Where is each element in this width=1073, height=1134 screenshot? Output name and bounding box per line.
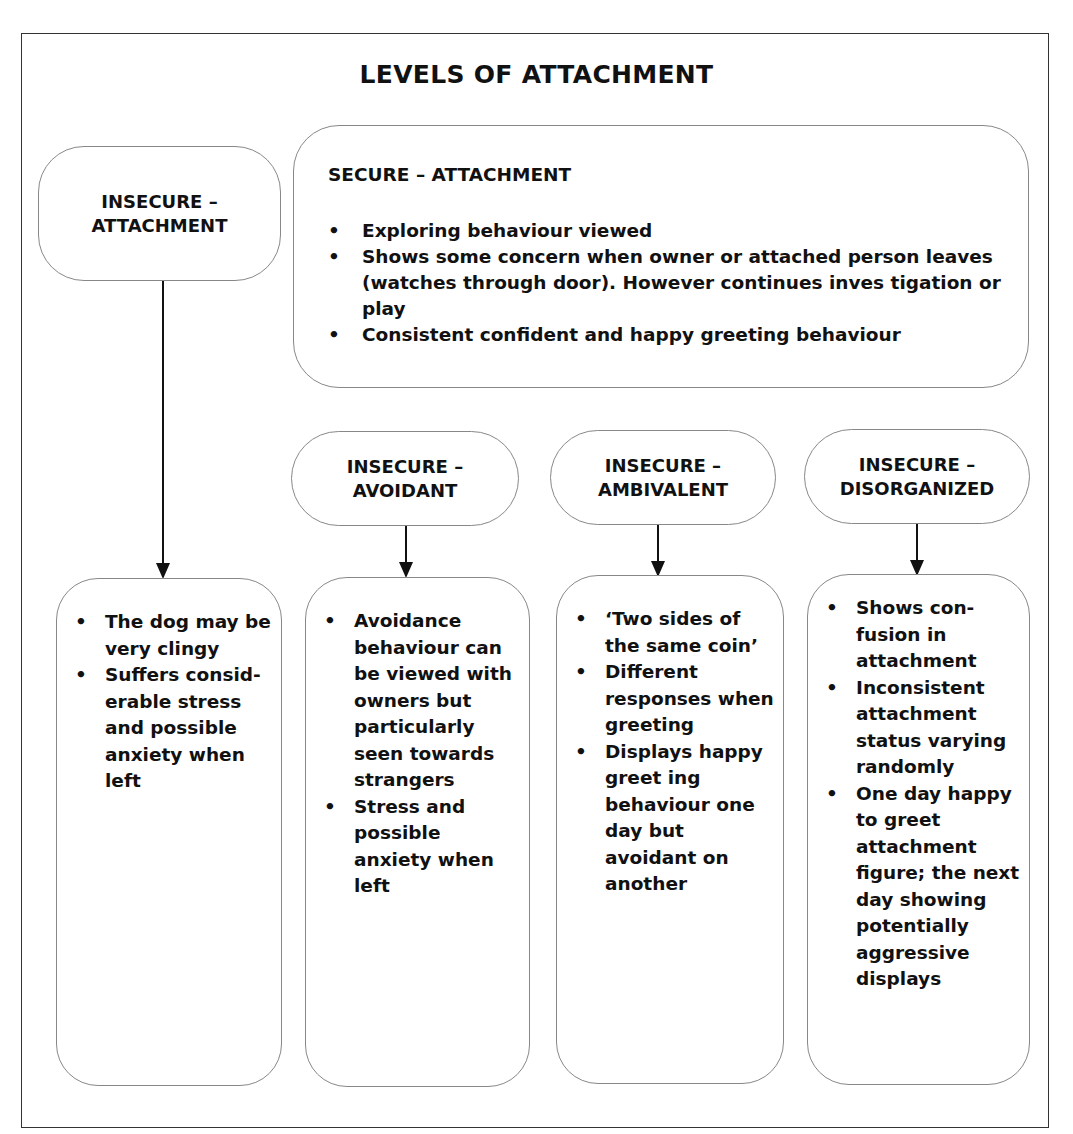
list-item: Shows con-fusion in attachment [822, 595, 1023, 675]
arrow-down-icon [162, 281, 164, 577]
arrow-down-icon [405, 526, 407, 576]
secure-attachment-node: SECURE – ATTACHMENT Exploring behaviour … [293, 125, 1029, 388]
node-label-line2: AMBIVALENT [598, 478, 728, 502]
list-item: Exploring behaviour viewed [324, 218, 1008, 244]
insecure-ambivalent-details: ‘Two sides of the same coin’ Different r… [556, 575, 784, 1084]
list-item: Avoidance behaviour can be viewed with o… [320, 608, 523, 794]
list-item: Stress and possible anxiety when left [320, 794, 523, 900]
insecure-attachment-node: INSECURE – ATTACHMENT [38, 146, 281, 281]
insecure-ambivalent-node: INSECURE – AMBIVALENT [550, 430, 776, 525]
list-item: ‘Two sides of the same coin’ [571, 606, 777, 659]
insecure-attachment-details: The dog may be very clingy Suffers consi… [56, 578, 282, 1086]
details-list: Avoidance behaviour can be viewed with o… [320, 608, 523, 900]
list-item: Shows some concern when owner or attache… [324, 244, 1008, 322]
secure-attachment-heading: SECURE – ATTACHMENT [328, 164, 571, 185]
arrow-down-icon [916, 524, 918, 574]
insecure-disorganized-node: INSECURE – DISORGANIZED [804, 429, 1030, 524]
list-item: Consistent confident and happy greeting … [324, 322, 1008, 348]
insecure-disorganized-details: Shows con-fusion in attachment Inconsist… [807, 574, 1030, 1085]
list-item: Suffers consid-erable stress and possibl… [71, 662, 275, 795]
list-item: Different responses when greeting [571, 659, 777, 739]
list-item: Inconsistent attachment status varying r… [822, 675, 1023, 781]
node-label-line1: INSECURE – [92, 190, 228, 214]
node-label-line1: INSECURE – [347, 455, 463, 479]
details-list: Shows con-fusion in attachment Inconsist… [822, 595, 1023, 993]
details-list: The dog may be very clingy Suffers consi… [71, 609, 275, 795]
node-label-line1: INSECURE – [598, 454, 728, 478]
list-item: One day happy to greet attachment figure… [822, 781, 1023, 993]
secure-attachment-list: Exploring behaviour viewed Shows some co… [324, 218, 1008, 348]
insecure-avoidant-details: Avoidance behaviour can be viewed with o… [305, 577, 530, 1087]
node-label-line2: DISORGANIZED [840, 477, 995, 501]
list-item: The dog may be very clingy [71, 609, 275, 662]
list-item: Displays happy greet ing behaviour one d… [571, 739, 777, 898]
node-label-line2: AVOIDANT [347, 479, 463, 503]
node-label-line2: ATTACHMENT [92, 214, 228, 238]
diagram-title: LEVELS OF ATTACHMENT [0, 60, 1073, 89]
details-list: ‘Two sides of the same coin’ Different r… [571, 606, 777, 898]
insecure-avoidant-node: INSECURE – AVOIDANT [291, 431, 519, 526]
node-label-line1: INSECURE – [840, 453, 995, 477]
arrow-down-icon [657, 525, 659, 575]
